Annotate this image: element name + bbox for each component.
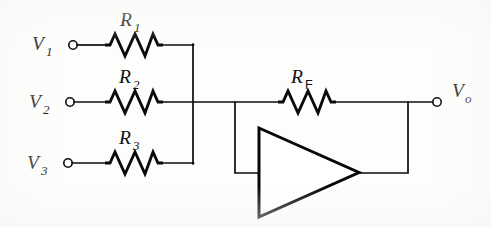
terminal-v2-icon[interactable] [66, 98, 74, 106]
terminal-vo-icon[interactable] [433, 98, 441, 106]
label-r1: R 1 [119, 9, 141, 35]
label-vo: V o [452, 80, 472, 106]
label-r1-symbol: R [119, 9, 132, 30]
input-branch-v2 [66, 91, 278, 113]
label-vo-subscript: o [465, 91, 472, 106]
label-rf-subscript: F [305, 78, 313, 92]
resistor-r1-icon [105, 34, 163, 56]
resistor-r3-icon [105, 152, 163, 174]
resistor-rf-icon [278, 91, 336, 113]
resistor-r2-icon [105, 91, 163, 113]
label-r3-subscript: 3 [132, 138, 140, 153]
label-rf-symbol: R [290, 66, 303, 87]
opamp-triangle-icon[interactable] [259, 128, 359, 217]
circuit-diagram: V 1 V 2 V 3 R 1 R 2 R 3 R F V o [0, 0, 491, 227]
label-v1-symbol: V [32, 33, 46, 54]
wire-inverting-input [235, 102, 259, 173]
label-v3-symbol: V [27, 152, 41, 173]
wire-feedback-return [359, 102, 408, 173]
label-r2: R 2 [118, 66, 140, 92]
label-r3: R 3 [118, 127, 140, 153]
label-r2-subscript: 2 [133, 77, 140, 92]
terminal-v1-icon[interactable] [69, 41, 77, 49]
terminal-v3-icon[interactable] [64, 159, 72, 167]
label-vo-symbol: V [452, 80, 466, 101]
label-r2-symbol: R [118, 66, 131, 87]
label-v2-subscript: 2 [43, 102, 50, 117]
input-branch-v1 [69, 34, 194, 56]
label-r1-subscript: 1 [134, 20, 141, 35]
label-v1: V 1 [32, 33, 53, 59]
label-v3: V 3 [27, 152, 48, 178]
label-v1-subscript: 1 [46, 44, 53, 59]
circuit-schematic-svg: V 1 V 2 V 3 R 1 R 2 R 3 R F V o [0, 0, 491, 227]
label-v2-symbol: V [29, 91, 43, 112]
label-v2: V 2 [29, 91, 50, 117]
label-v3-subscript: 3 [40, 163, 48, 178]
input-branch-v3 [64, 152, 194, 174]
label-rf: R F [290, 66, 313, 92]
label-r3-symbol: R [118, 127, 131, 148]
